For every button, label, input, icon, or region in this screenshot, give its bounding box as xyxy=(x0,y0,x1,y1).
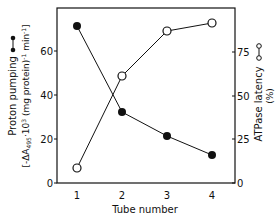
plot-frame xyxy=(57,8,235,183)
line-chart: 0 20 40 60 0 25 50 75 1 2 3 4 Tube numbe… xyxy=(0,0,280,217)
x-tick-label: 1 xyxy=(74,190,80,201)
x-tick-label: 4 xyxy=(209,190,215,201)
data-point xyxy=(163,132,171,140)
left-tick-label: 0 xyxy=(47,178,53,189)
x-tick-label: 2 xyxy=(119,190,125,201)
left-tick-label: 20 xyxy=(40,134,53,145)
right-tick-label: 25 xyxy=(237,134,250,145)
series-proton-pumping xyxy=(73,22,216,159)
data-point xyxy=(208,151,216,159)
right-tick-label: 75 xyxy=(237,47,250,58)
data-point xyxy=(73,164,81,172)
data-point xyxy=(163,27,171,35)
right-tick-label: 50 xyxy=(237,91,250,102)
data-point xyxy=(73,22,81,30)
left-axis-label: Proton pumping [-ΔA495·103 (mg protein)-… xyxy=(7,24,32,167)
x-tick-label: 3 xyxy=(164,190,170,201)
data-point xyxy=(118,72,126,80)
svg-text:ATPase latency: ATPase latency xyxy=(253,66,264,141)
data-point xyxy=(208,19,216,27)
x-axis-label: Tube number xyxy=(111,204,179,215)
filled-circle-legend-icon xyxy=(11,36,16,53)
right-tick-label: 0 xyxy=(237,178,243,189)
svg-text:(%): (%) xyxy=(265,88,275,104)
left-tick-label: 60 xyxy=(40,46,53,57)
svg-text:Proton pumping: Proton pumping xyxy=(7,56,18,136)
left-axis-units: [-ΔA495·103 (mg protein)-1 min-1] xyxy=(20,24,32,167)
left-tick-label: 40 xyxy=(40,90,53,101)
series-atpase-latency xyxy=(73,19,216,172)
data-point xyxy=(118,108,126,116)
chart-container: 0 20 40 60 0 25 50 75 1 2 3 4 Tube numbe… xyxy=(0,0,280,217)
open-circle-legend-icon xyxy=(257,44,262,61)
right-axis-label: ATPase latency (%) xyxy=(253,44,275,142)
